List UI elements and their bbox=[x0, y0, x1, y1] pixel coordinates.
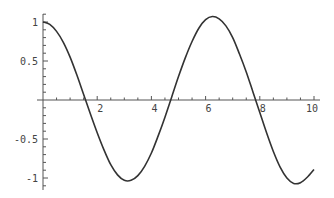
y-tick-label: 1 bbox=[32, 17, 38, 28]
x-tick-label: 8 bbox=[260, 103, 266, 114]
x-tick-label: 10 bbox=[306, 103, 318, 114]
y-tick-label: -0.5 bbox=[14, 134, 38, 145]
y-tick-label: 0.5 bbox=[20, 56, 38, 67]
line-chart: 24681010.5-0.5-1 bbox=[0, 0, 334, 198]
x-tick-label: 4 bbox=[151, 103, 157, 114]
y-tick-label: -1 bbox=[26, 173, 38, 184]
x-tick-label: 2 bbox=[97, 103, 103, 114]
x-tick-label: 6 bbox=[206, 103, 212, 114]
axes bbox=[37, 14, 320, 190]
